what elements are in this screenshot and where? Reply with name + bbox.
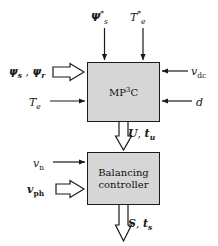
label-u-tu: U, tu [128, 128, 155, 142]
hollow-arrow-vph [56, 181, 84, 198]
connector-lines-layer [0, 0, 218, 246]
block-diagram: MP3C Balancingcontroller Ψ*s T*e ψs , ψr… [0, 0, 218, 246]
hollow-arrow-psi-sr [53, 64, 84, 81]
block-balancing-label: Balancingcontroller [98, 167, 149, 190]
label-psi-s-reference: Ψ*s [91, 10, 108, 25]
block-mp3c[interactable]: MP3C [87, 62, 160, 122]
label-vdc: vdc [191, 66, 206, 80]
label-d: d [196, 97, 203, 108]
label-te-reference: T*e [130, 10, 146, 25]
label-te: Te [29, 97, 41, 111]
block-mp3c-label: MP3C [109, 86, 138, 99]
label-vph: vph [27, 184, 44, 198]
label-vn: vn [33, 158, 44, 172]
block-balancing-controller[interactable]: Balancingcontroller [87, 152, 160, 205]
label-s-ts: S, ts [128, 218, 152, 232]
label-psi-s-psi-r: ψs , ψr [9, 66, 45, 80]
